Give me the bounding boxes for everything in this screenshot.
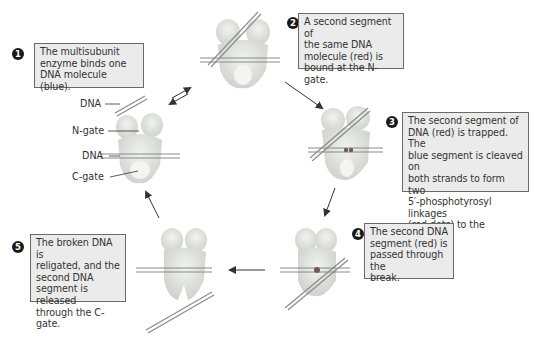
caption-line: The multisubunit <box>40 46 139 58</box>
step-1-badge: 1 <box>12 48 24 60</box>
linkage-dot <box>349 148 353 152</box>
caption-line: bound at the N-gate. <box>304 62 399 85</box>
caption-line: passed through the <box>370 249 449 272</box>
step-3-caption: The second segment of DNA (red) is trapp… <box>402 112 529 192</box>
caption-line: 5′-phosphotyrosyl linkages <box>408 196 524 219</box>
caption-line: A second segment of <box>304 16 399 39</box>
step-3-badge: 3 <box>386 116 398 128</box>
caption-line: segment (red) is <box>370 238 449 250</box>
enzyme-state-3 <box>308 106 383 180</box>
caption-line: molecule (red) is <box>304 51 399 63</box>
step-4-badge: 4 <box>352 228 364 240</box>
enzyme-state-4 <box>280 228 350 310</box>
label-dna-middle: DNA <box>82 150 103 161</box>
caption-line: religated, and the <box>36 260 121 272</box>
caption-line: enzyme binds one <box>40 58 139 70</box>
enzyme-state-5 <box>136 228 214 333</box>
linkage-dot <box>314 267 320 273</box>
caption-line: DNA molecule (blue). <box>40 69 139 92</box>
caption-line: the same DNA <box>304 39 399 51</box>
topoisomerase-cycle-diagram: DNA N-gate DNA C-gate 1 The multisubunit… <box>0 0 543 340</box>
enzyme-state-1 <box>100 96 180 183</box>
step-2-caption: A second segment of the same DNA molecul… <box>298 13 404 69</box>
caption-line: break. <box>370 272 449 284</box>
enzyme-state-2 <box>200 12 280 88</box>
label-n-gate: N-gate <box>72 125 104 136</box>
linkage-dot <box>344 148 348 152</box>
caption-line: blue segment is cleaved on <box>408 150 524 173</box>
caption-line: The second DNA <box>370 226 449 238</box>
label-dna-top: DNA <box>80 98 101 109</box>
arrow-2-to-3 <box>285 82 322 108</box>
caption-line: DNA (red) is trapped. The <box>408 127 524 150</box>
label-c-gate: C-gate <box>72 171 104 182</box>
step-5-badge: 5 <box>12 241 24 253</box>
arrow-5-to-1 <box>146 192 159 218</box>
caption-line: second DNA <box>36 272 121 284</box>
step-4-caption: The second DNA segment (red) is passed t… <box>364 223 454 279</box>
caption-line: The broken DNA is <box>36 237 121 260</box>
step-1-caption: The multisubunit enzyme binds one DNA mo… <box>34 43 144 88</box>
caption-line: through the C-gate. <box>36 307 121 330</box>
caption-line: The second segment of <box>408 115 524 127</box>
step-5-caption: The broken DNA is religated, and the sec… <box>30 234 126 302</box>
arrow-3-to-4 <box>325 188 335 215</box>
caption-line: segment is released <box>36 283 121 306</box>
caption-line: both strands to form two <box>408 173 524 196</box>
equilibrium-arrows <box>170 88 190 104</box>
